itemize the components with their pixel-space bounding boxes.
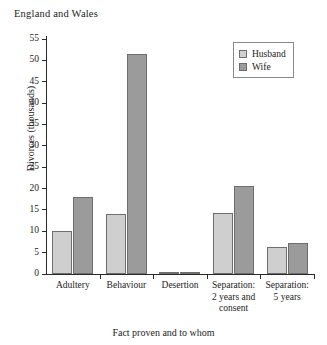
bar-wife: [288, 243, 308, 274]
bar-group: [153, 39, 207, 274]
bar-husband: [106, 214, 126, 274]
bar-wife: [73, 197, 93, 274]
legend-swatch-husband-icon: [239, 50, 247, 58]
x-axis-tick-labels: AdulteryBehaviourDesertionSeparation:2 y…: [46, 280, 315, 330]
legend-item-wife: Wife: [239, 60, 286, 73]
x-separator-tick: [260, 274, 261, 279]
y-tick-label: 0: [34, 267, 39, 280]
legend-item-husband: Husband: [239, 47, 286, 60]
x-tick-label: Adultery: [46, 280, 100, 292]
x-tick-label-line: Behaviour: [100, 280, 154, 292]
x-tick-label: Behaviour: [100, 280, 154, 292]
bar-husband: [267, 247, 287, 274]
x-tick-label-line: Separation:: [260, 280, 314, 292]
bar-husband: [52, 231, 72, 274]
bar-husband: [213, 213, 233, 274]
x-tick-label-line: Separation:: [207, 280, 261, 292]
x-separator-tick: [207, 274, 208, 279]
x-tick-label-line: consent: [207, 303, 261, 315]
x-tick-label-line: Desertion: [153, 280, 207, 292]
x-tick-label: Separation:2 years andconsent: [207, 280, 261, 315]
x-tick-label: Desertion: [153, 280, 207, 292]
legend-swatch-wife-icon: [239, 63, 247, 71]
legend-label-husband: Husband: [252, 49, 286, 59]
y-axis-title: Divorces (thousands): [25, 39, 36, 219]
y-tick-label: 10: [30, 224, 40, 237]
y-tick-label: 5: [34, 246, 39, 259]
x-tick-label: Separation:5 years: [260, 280, 314, 303]
x-axis-line: [46, 274, 315, 275]
x-axis-title: Fact proven and to whom: [0, 327, 327, 338]
bar-wife: [127, 54, 147, 274]
x-separator-tick: [153, 274, 154, 279]
x-tick-label-line: 5 years: [260, 292, 314, 304]
bar-group: [100, 39, 154, 274]
bar-husband: [159, 272, 179, 274]
x-tick-label-line: Adultery: [46, 280, 100, 292]
x-tick-label-line: 2 years and: [207, 292, 261, 304]
bar-chart: England and Wales 0510152025303540455055…: [0, 0, 327, 345]
bar-group: [46, 39, 100, 274]
x-separator-tick: [314, 274, 315, 279]
bar-wife: [180, 272, 200, 274]
chart-title: England and Wales: [14, 8, 98, 19]
legend-label-wife: Wife: [252, 62, 271, 72]
x-separator-tick: [100, 274, 101, 279]
legend: Husband Wife: [233, 42, 294, 78]
bar-wife: [234, 186, 254, 274]
